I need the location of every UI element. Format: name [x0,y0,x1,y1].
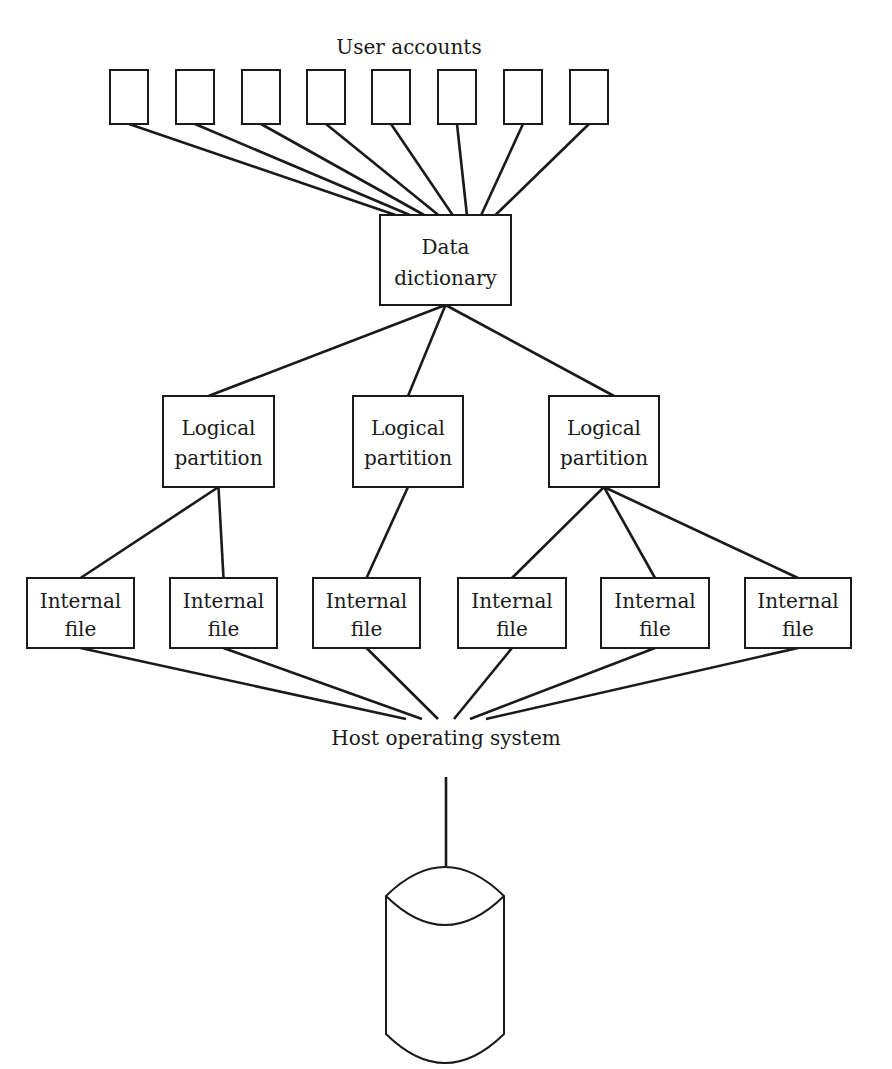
logical-partition-box [353,396,463,487]
data-dictionary-label-line2: dictionary [394,266,497,290]
internal-file-label-line2: file [208,617,240,641]
logical-partitions-group: LogicalpartitionLogicalpartitionLogicalp… [163,396,659,487]
logical-partition-node: Logicalpartition [353,396,463,487]
disk-storage-cylinder-icon [386,867,504,1063]
internal-file-node: Internalfile [458,578,566,648]
internal-file-label-line1: Internal [183,589,264,613]
internal-file-label-line1: Internal [471,589,552,613]
internal-file-label-line2: file [65,617,97,641]
user-account-box [176,70,214,124]
data-dictionary-label-line1: Data [422,235,470,259]
logical-partition-node: Logicalpartition [163,396,274,487]
partition-to-file-line [604,487,655,578]
user-account-box [110,70,148,124]
internal-file-node: Internalfile [170,578,277,648]
user-account-box [307,70,345,124]
partition-to-file-line [219,487,224,578]
data-dictionary-box [380,215,511,305]
internal-file-node: Internalfile [601,578,709,648]
user-to-dictionary-line [129,124,396,215]
file-to-host-line [81,648,407,719]
dictionary-to-partition-line [209,305,446,396]
logical-partition-label-line1: Logical [181,416,255,440]
file-to-host-line [454,648,512,719]
dictionary-to-partition-line [446,305,615,396]
logical-partition-label-line1: Logical [567,416,641,440]
partition-to-file-line [512,487,604,578]
user-accounts-label: User accounts [336,35,481,59]
user-to-dictionary-line [496,124,590,215]
architecture-diagram: User accounts Data dictionary Logicalpar… [0,0,892,1069]
internal-file-node: Internalfile [745,578,851,648]
internal-file-label-line1: Internal [614,589,695,613]
partition-to-file-line [81,487,219,578]
file-to-host-line [367,648,439,719]
user-accounts-group [110,70,608,124]
internal-file-label-line1: Internal [757,589,838,613]
partition-to-file-line [604,487,798,578]
file-to-host-line [486,648,798,719]
logical-partition-box [549,396,659,487]
user-account-box [372,70,410,124]
logical-partition-label-line2: partition [560,446,648,470]
internal-file-label-line2: file [351,617,383,641]
internal-file-label-line2: file [782,617,814,641]
user-account-box [438,70,476,124]
internal-file-label-line1: Internal [40,589,121,613]
internal-file-label-line1: Internal [326,589,407,613]
logical-partition-box [163,396,274,487]
logical-partition-label-line2: partition [174,446,262,470]
internal-file-label-line2: file [639,617,671,641]
user-account-box [504,70,542,124]
logical-partition-label-line1: Logical [371,416,445,440]
user-to-dictionary-line [457,124,467,215]
file-to-host-line [224,648,423,719]
internal-file-node: Internalfile [27,578,134,648]
logical-partition-node: Logicalpartition [549,396,659,487]
internal-file-node: Internalfile [313,578,420,648]
internal-file-label-line2: file [496,617,528,641]
dictionary-to-partition-line [408,305,446,396]
data-dictionary-node: Data dictionary [380,215,511,305]
logical-partition-label-line2: partition [364,446,452,470]
user-account-box [242,70,280,124]
partition-to-file-line [367,487,409,578]
user-to-dictionary-line [195,124,410,215]
user-account-box [570,70,608,124]
host-operating-system-label: Host operating system [331,726,560,750]
file-to-host-line [470,648,655,719]
user-to-dictionary-line [481,124,523,215]
internal-files-group: InternalfileInternalfileInternalfileInte… [27,578,851,648]
